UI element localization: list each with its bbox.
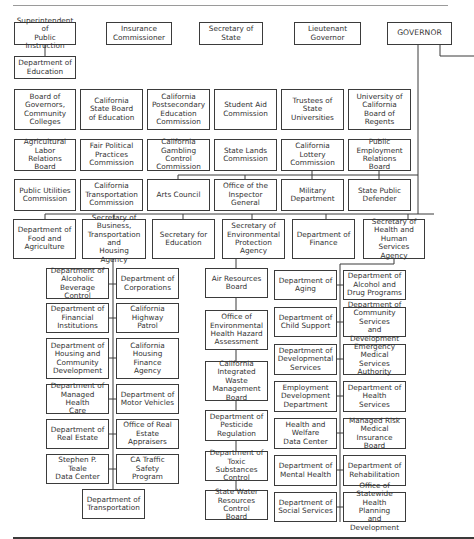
org-box-puc: Public Utilities Commission [14, 179, 76, 211]
org-box-superintendent: Superintendent of Public Instruction [14, 22, 76, 45]
org-box-oshpd: Office of Statewide Health Planning and … [343, 492, 406, 522]
org-box-developmental-services: Department of Developmental Services [274, 344, 337, 375]
org-box-social-services: Department of Social Services [274, 492, 337, 522]
org-box-financial-institutions: Department of Financial Institutions [46, 303, 109, 333]
org-box-finance: Department of Finance [292, 219, 355, 259]
org-box-bth-agency: Secretary of Business, Transportation an… [82, 219, 146, 259]
org-box-ciwmb: California Integrated Waste Management B… [205, 361, 268, 401]
org-box-pesticide-regulation: Department of Pesticide Regulation [205, 410, 268, 441]
org-box-dmv: Department of Motor Vehicles [116, 384, 179, 414]
org-box-corporations: Department of Corporations [116, 268, 179, 299]
org-box-postsecondary-commission: California Postsecondary Education Commi… [147, 89, 210, 130]
org-box-military-dept: Military Department [281, 179, 344, 211]
org-box-water-resources: State Water Resources Control Board [205, 490, 268, 520]
org-box-edd: Employment Development Department [274, 381, 337, 412]
org-box-food-agriculture: Department of Food and Agriculture [13, 219, 76, 259]
org-box-secretary-of-state: Secretary of State [199, 22, 263, 45]
org-box-real-estate: Department of Real Estate [46, 419, 109, 449]
org-box-arts-council: Arts Council [147, 179, 210, 211]
org-box-health-services: Department of Health Services [343, 381, 406, 412]
org-box-air-resources: Air Resources Board [205, 268, 268, 298]
org-box-board-of-governors: Board of Governors, Community Colleges [14, 89, 76, 130]
org-box-managed-health-care: Department of Managed Health Care [46, 384, 109, 414]
org-box-toxic-substances: Department of Toxic Substances Control [205, 451, 268, 481]
org-box-chp: California Highway Patrol [116, 303, 179, 333]
org-box-alcohol-drug: Department of Alcohol and Drug Programs [343, 270, 406, 300]
org-box-state-public-defender: State Public Defender [348, 179, 411, 211]
org-box-real-estate-appraisers: Office of Real Estate Appraisers [116, 419, 179, 449]
org-box-emsa: Emergency Medical Services Authority [343, 344, 406, 375]
org-box-lt-governor: Lieutenant Governor [294, 22, 361, 45]
org-box-caltrans: Department of Transportation [82, 489, 145, 519]
org-box-health-welfare-data: Health and Welfare Data Center [274, 418, 337, 449]
org-box-fair-political-practices: Fair Political Practices Commission [80, 139, 143, 171]
org-box-gambling-control: California Gambling Control Commission [147, 139, 210, 171]
org-box-perb: Public Employment Relations Board [348, 139, 411, 171]
org-box-child-support: Department of Child Support [274, 307, 337, 337]
org-box-hcd: Department of Housing and Community Deve… [46, 338, 109, 379]
org-box-oehha: Office of Environmental Health Hazard As… [205, 310, 268, 350]
org-box-dept-education: Department of Education [14, 56, 76, 79]
org-box-state-lands: State Lands Commission [214, 139, 277, 171]
org-box-community-services: Department of Community Services and Dev… [343, 307, 406, 337]
org-box-student-aid: Student Aid Commission [214, 89, 277, 130]
org-box-governor: GOVERNOR [387, 22, 452, 45]
org-box-traffic-safety: CA Traffic Safety Program [116, 454, 179, 484]
org-box-epa: Secretary of Environmental Protection Ag… [222, 219, 285, 259]
org-box-housing-finance: California Housing Finance Agency [116, 338, 179, 379]
org-box-uc-regents: University of California Board of Regent… [348, 89, 411, 130]
org-box-inspector-general: Office of the Inspector General [214, 179, 277, 211]
org-box-hhs-agency: Secretary of Health and Human Services A… [363, 219, 425, 259]
org-box-secretary-education: Secretary for Education [152, 219, 215, 259]
org-box-lottery-commission: California Lottery Commission [281, 139, 344, 171]
org-box-aging: Department of Aging [274, 270, 337, 300]
org-box-transportation-commission: California Transportation Commission [80, 179, 143, 211]
org-box-state-board-education: California State Board of Education [80, 89, 143, 130]
org-box-teale-data-center: Stephen P. Teale Data Center [46, 454, 109, 484]
org-box-abc: Department of Alcoholic Beverage Control [46, 268, 109, 299]
org-box-ag-labor-relations: Agricultural Labor Relations Board [14, 139, 76, 171]
org-box-mental-health: Department of Mental Health [274, 455, 337, 486]
org-box-insurance: Insurance Commissioner [106, 22, 172, 45]
org-box-mrmib: Managed Risk Medical Insurance Board [343, 418, 406, 449]
org-box-trustees-state-universities: Trustees of State Universities [281, 89, 344, 130]
